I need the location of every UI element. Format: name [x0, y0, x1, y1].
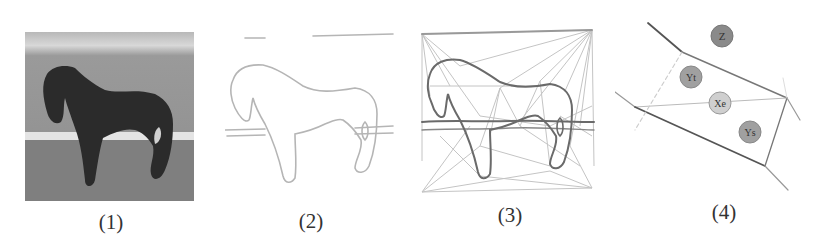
- panel-4-local-cell: Z Yt Xe Ys: [615, 15, 835, 200]
- node-xe: Xe: [709, 92, 731, 114]
- caption-panel-4: (4): [694, 200, 754, 225]
- node-ys: Ys: [739, 121, 761, 143]
- horse-photo-image: [25, 32, 194, 201]
- horse-contour-image: [225, 28, 395, 188]
- local-cell-diagram: Z Yt Xe Ys: [615, 15, 835, 200]
- node-z: Z: [711, 25, 733, 47]
- svg-text:Yt: Yt: [686, 72, 696, 83]
- panel-1-photo: [25, 32, 194, 201]
- panel-3-triangulation: [420, 26, 595, 198]
- svg-text:Z: Z: [719, 30, 726, 42]
- caption-panel-3: (3): [480, 203, 540, 228]
- svg-text:Xe: Xe: [714, 98, 726, 109]
- caption-panel-2: (2): [281, 209, 341, 234]
- panel-2-contour: [225, 28, 395, 188]
- svg-text:Ys: Ys: [744, 127, 755, 138]
- triangulation-image: [420, 26, 595, 198]
- node-yt: Yt: [680, 66, 702, 88]
- caption-panel-1: (1): [81, 210, 141, 235]
